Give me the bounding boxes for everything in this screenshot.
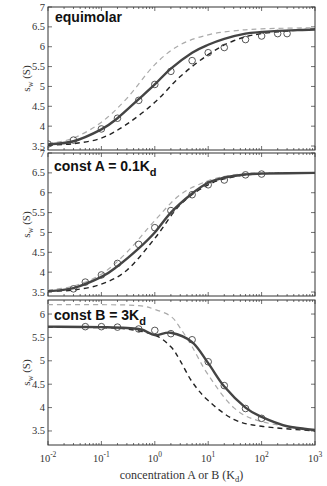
y-tick-label: 5.5: [32, 332, 45, 343]
y-tick-label: 6: [40, 41, 45, 52]
y-tick-label: 3.5: [32, 287, 45, 298]
y-tick-label: 5: [40, 227, 45, 238]
x-tick-label: 100: [148, 450, 163, 464]
y-tick-label: 6.5: [32, 21, 45, 32]
y-tick-label: 5.5: [32, 61, 45, 72]
panel-title-equimolar: equimolar: [55, 9, 122, 25]
x-tick-label: 103: [308, 450, 323, 464]
plot-frame: [48, 7, 315, 150]
x-tick-label: 102: [254, 450, 269, 464]
y-tick-label: 7: [40, 2, 45, 13]
y-tick-label: 3.5: [32, 425, 45, 436]
y-tick-label: 6: [40, 309, 45, 320]
y-tick-label: 4.5: [32, 101, 45, 112]
x-tick-label: 10-1: [93, 450, 110, 464]
y-tick-label: 4: [40, 402, 46, 413]
y-tick-label: 5: [40, 355, 45, 366]
y-tick-label: 4: [40, 267, 46, 278]
y-tick-label: 5.5: [32, 207, 45, 218]
y-tick-label: 6.5: [32, 167, 45, 178]
y-tick-label: 4: [40, 121, 46, 132]
y-tick-label: 7: [40, 148, 45, 159]
y-tick-label: 4.5: [32, 247, 45, 258]
y-tick-label: 6: [40, 187, 45, 198]
x-tick-label: 101: [201, 450, 216, 464]
x-axis-label: concentration A or B (Kd): [120, 468, 244, 484]
y-tick-label: 5: [40, 81, 45, 92]
x-tick-label: 10-2: [40, 450, 57, 464]
chart-figure: 3.544.555.566.57sw (S)3.544.555.566.57sw…: [0, 0, 327, 486]
y-axis-label: sw (S): [20, 359, 35, 386]
